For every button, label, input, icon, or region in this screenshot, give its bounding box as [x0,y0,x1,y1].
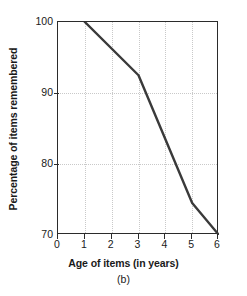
y-tick-label: 90 [25,87,53,98]
x-tick-label: 3 [135,239,141,250]
x-tick-label: 1 [81,239,87,250]
x-tick-label: 4 [161,239,167,250]
figure-panel-b: Percentage of items remembered 100 90 80… [0,0,247,296]
plot-inner [58,22,217,233]
y-axis-tick-labels: 100 90 80 70 [25,0,53,296]
y-tick-label: 80 [25,158,53,169]
plot-area [57,21,218,234]
y-tick-label: 100 [25,16,53,27]
series-polyline-percentage-remembered [85,22,219,235]
y-tick-label: 70 [25,229,53,240]
x-axis-title: Age of items (in years) [0,257,247,269]
figure-caption: (b) [0,273,247,285]
x-tick-label: 5 [188,239,194,250]
y-axis-title: Percentage of items remembered [4,21,22,237]
x-axis-tick-labels: 0 1 2 3 4 5 6 [57,239,218,253]
data-line-chart [58,22,219,235]
x-tick-label: 6 [214,239,220,250]
x-tick-label: 2 [108,239,114,250]
x-tick-label: 0 [54,239,60,250]
